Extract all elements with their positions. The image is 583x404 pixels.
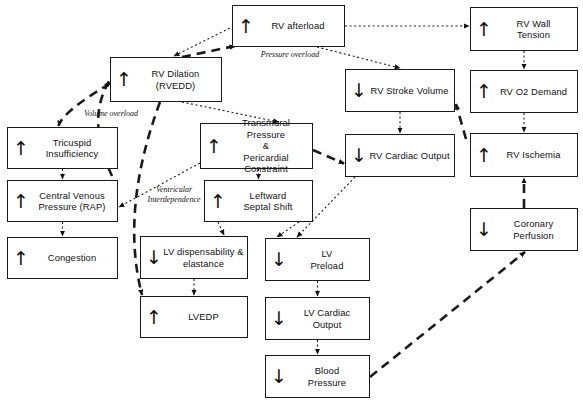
node-label: Congestion xyxy=(30,252,117,264)
node-cvp[interactable]: ↑Central VenousPressure (RAP) xyxy=(7,180,118,222)
node-label: RV Dilation(RVEDD) xyxy=(133,68,221,91)
node-coronary_perfusion[interactable]: ↓Coronary Perfusion xyxy=(470,208,578,251)
node-lv_cardiac_output[interactable]: ↓LV CardiacOutput xyxy=(265,297,370,340)
edge-septal_shift-to-lv_preload xyxy=(277,222,299,237)
edge-rv_afterload-to-rv_dilation xyxy=(174,24,238,56)
node-label: RV Ischemia xyxy=(493,149,577,161)
node-rv_cardiac_output[interactable]: ↓RV Cardiac Output xyxy=(345,134,455,177)
node-tricuspid[interactable]: ↑TricuspidInsufficiency xyxy=(7,127,118,169)
node-lv_dispensability[interactable]: ↓LV dispensability &elastance xyxy=(140,236,248,279)
arrow-up-icon: ↑ xyxy=(115,70,133,89)
node-rv_afterload[interactable]: ↑RV afterload xyxy=(232,5,345,47)
node-rv_stroke_volume[interactable]: ↓RV Stroke Volume xyxy=(345,69,455,112)
node-rv_ischemia[interactable]: ↑RV Ischemia xyxy=(470,133,578,177)
node-label: Coronary Perfusion xyxy=(493,218,577,241)
node-blood_pressure[interactable]: ↓BloodPressure xyxy=(265,355,370,398)
arrow-up-icon: ↑ xyxy=(12,249,30,268)
arrow-up-icon: ↑ xyxy=(209,192,227,211)
node-label: TricuspidInsufficiency xyxy=(30,137,117,160)
arrow-down-icon: ↓ xyxy=(350,146,368,165)
node-congestion[interactable]: ↑Congestion xyxy=(7,237,118,279)
arrow-down-icon: ↓ xyxy=(270,367,288,386)
arrow-up-icon: ↑ xyxy=(205,137,223,156)
node-label: RV WallTension xyxy=(493,18,577,41)
diagram-canvas: ↑RV afterload↑RV WallTension↑RV Dilation… xyxy=(0,0,583,404)
arrow-down-icon: ↓ xyxy=(145,248,163,267)
node-label: RV afterload xyxy=(255,20,344,32)
edge-blood_pressure-to-coronary_perfusion xyxy=(370,252,525,377)
node-septal_shift[interactable]: ↑LeftwardSeptal Shift xyxy=(204,180,313,222)
edge-label-ventricular_interdependence: VentricularInterdependence xyxy=(141,185,207,205)
node-rv_o2_demand[interactable]: ↑RV O2 Demand xyxy=(470,70,578,113)
node-label: RV Stroke Volume xyxy=(368,85,454,97)
node-label: LVEDP xyxy=(163,311,247,323)
arrow-down-icon: ↓ xyxy=(475,220,493,239)
node-lv_preload[interactable]: ↓LVPreload xyxy=(265,238,370,281)
arrow-up-icon: ↑ xyxy=(145,308,163,327)
node-label: LV CardiacOutput xyxy=(288,307,369,330)
arrow-up-icon: ↑ xyxy=(475,82,493,101)
arrow-up-icon: ↑ xyxy=(12,192,30,211)
node-label: LeftwardSeptal Shift xyxy=(227,190,312,213)
node-label: Transmural Pressure&Pericardial Constrai… xyxy=(223,117,312,175)
arrow-up-icon: ↑ xyxy=(237,17,255,36)
node-label: RV O2 Demand xyxy=(493,86,577,98)
arrow-down-icon: ↓ xyxy=(270,250,288,269)
node-label: LV dispensability &elastance xyxy=(163,246,247,269)
arrow-down-icon: ↓ xyxy=(350,81,368,100)
node-transmural[interactable]: ↑Transmural Pressure&Pericardial Constra… xyxy=(200,123,313,169)
node-rv_dilation[interactable]: ↑RV Dilation(RVEDD) xyxy=(110,57,222,102)
edge-label-volume_overload: Volume overload xyxy=(73,109,149,119)
arrow-down-icon: ↓ xyxy=(270,309,288,328)
arrow-up-icon: ↑ xyxy=(475,20,493,39)
node-label: BloodPressure xyxy=(288,365,369,388)
arrow-up-icon: ↑ xyxy=(475,146,493,165)
edge-label-pressure_overload: Pressure overload xyxy=(249,50,331,60)
edge-rv_dilation-to-rv_afterload xyxy=(182,46,235,57)
node-label: Central VenousPressure (RAP) xyxy=(30,190,117,213)
arrow-up-icon: ↑ xyxy=(12,139,30,158)
node-lvedp[interactable]: ↑LVEDP xyxy=(140,296,248,338)
edge-rv_dilation-to-tricuspid xyxy=(59,84,111,127)
edge-transmural-to-rv_cardiac_output xyxy=(313,150,344,164)
node-label: LVPreload xyxy=(288,248,369,271)
edge-septal_shift-to-lv_dispensability xyxy=(218,222,224,235)
edge-rv_ischemia-to-rv_stroke_volume xyxy=(456,104,466,139)
node-label: RV Cardiac Output xyxy=(368,150,454,162)
node-rv_wall_tension[interactable]: ↑RV WallTension xyxy=(470,7,578,51)
